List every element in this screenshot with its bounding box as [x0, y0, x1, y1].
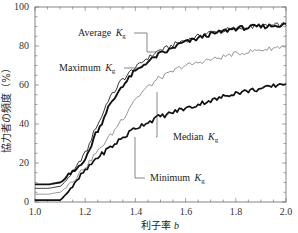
maximum-curve: [35, 23, 286, 184]
x-tick-1.0: 1.0: [29, 206, 42, 217]
maximum-label: Maximum Kg: [59, 62, 116, 75]
average-leader: [134, 33, 156, 52]
x-tick-labels: 1.0 1.2 1.4 1.6 1.8 2.0: [29, 206, 293, 217]
average-label: Average Kg: [78, 27, 126, 40]
x-tick-1.4: 1.4: [130, 206, 143, 217]
annotation-leaders: [124, 33, 157, 178]
line-chart: 0 20 40 60 80 100 1.0 1.2 1.4 1.6 1.8 2.…: [0, 0, 298, 233]
y-tick-40: 40: [19, 118, 29, 129]
y-tick-20: 20: [19, 157, 29, 168]
x-axis-title: 利子率 b: [141, 219, 179, 231]
median-label: Median Kg: [173, 131, 219, 144]
x-tick-1.8: 1.8: [230, 206, 243, 217]
y-tick-80: 80: [19, 40, 29, 51]
minimum-label: Minimum Kg: [150, 172, 205, 185]
minimum-leader: [135, 137, 145, 178]
y-tick-labels: 0 20 40 60 80 100: [14, 1, 29, 207]
x-tick-2.0: 2.0: [280, 206, 293, 217]
y-tick-60: 60: [19, 79, 29, 90]
x-axis-title-main: 利子率: [141, 219, 171, 231]
y-axis-title: 協力者の頻度（%）: [0, 63, 12, 153]
x-tick-1.2: 1.2: [79, 206, 92, 217]
median-leader: [156, 92, 157, 137]
y-tick-100: 100: [14, 1, 29, 12]
x-tick-1.6: 1.6: [180, 206, 193, 217]
x-axis-title-var: b: [174, 220, 179, 231]
average-curve: [35, 23, 286, 189]
